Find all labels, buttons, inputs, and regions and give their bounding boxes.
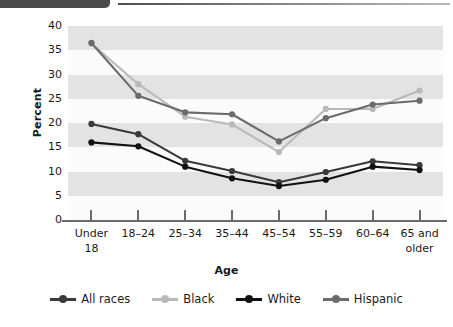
x-tick-mark	[278, 210, 280, 220]
data-point	[229, 111, 235, 117]
x-tick-label-line: 65 and	[385, 226, 453, 241]
data-point	[370, 158, 376, 164]
header-divider-rule	[118, 3, 450, 5]
data-point	[370, 164, 376, 170]
data-point	[135, 131, 141, 137]
data-point	[323, 115, 329, 121]
y-tick-label: 25	[30, 93, 62, 104]
y-tick-label: 30	[30, 69, 62, 80]
data-point	[416, 98, 422, 104]
y-tick-label: 10	[30, 166, 62, 177]
legend-label: Hispanic	[354, 292, 403, 306]
legend-item-hispanic[interactable]: Hispanic	[323, 292, 403, 306]
x-tick-mark	[231, 210, 233, 220]
legend-marker-icon	[152, 294, 178, 305]
y-tick-label: 15	[30, 141, 62, 152]
data-point	[88, 121, 94, 127]
data-point	[229, 168, 235, 174]
data-point	[416, 167, 422, 173]
header-tab-badge	[0, 0, 110, 8]
y-tick-label: 5	[30, 190, 62, 201]
chart-legend: All racesBlackWhiteHispanic	[0, 292, 453, 306]
data-point	[276, 149, 282, 155]
y-axis-tick-labels: 0510152025303540	[30, 14, 62, 220]
data-point	[323, 106, 329, 112]
x-tick-label-line: 18	[56, 241, 126, 256]
legend-label: All races	[81, 292, 130, 306]
data-point	[276, 183, 282, 189]
header-strip	[0, 0, 453, 14]
data-point	[88, 40, 94, 46]
legend-label: White	[267, 292, 300, 306]
y-tick-label: 0	[30, 214, 62, 225]
data-point	[135, 143, 141, 149]
data-point	[135, 93, 141, 99]
data-point	[135, 81, 141, 87]
data-point	[276, 138, 282, 144]
legend-marker-icon	[50, 294, 76, 305]
series-layer	[68, 26, 443, 220]
x-axis-line	[62, 220, 447, 222]
x-tick-mark	[184, 210, 186, 220]
plot-area	[68, 26, 443, 220]
y-tick-label: 20	[30, 117, 62, 128]
data-point	[182, 164, 188, 170]
data-point	[323, 177, 329, 183]
x-tick-label: 65 andolder	[385, 226, 453, 256]
data-point	[182, 109, 188, 115]
x-tick-mark	[137, 210, 139, 220]
legend-item-all-races[interactable]: All races	[50, 292, 130, 306]
x-axis-title: Age	[0, 264, 453, 277]
x-tick-mark	[90, 210, 92, 220]
series-line-hispanic	[91, 43, 419, 141]
series-line-white	[91, 142, 419, 186]
legend-marker-icon	[236, 294, 262, 305]
legend-item-white[interactable]: White	[236, 292, 300, 306]
x-tick-label-line: older	[385, 241, 453, 256]
data-point	[88, 139, 94, 145]
x-tick-mark	[419, 210, 421, 220]
x-tick-mark	[372, 210, 374, 220]
line-chart-figure: Percent 0510152025303540 Under1818–2425–…	[0, 14, 453, 327]
y-tick-label: 35	[30, 44, 62, 55]
legend-item-black[interactable]: Black	[152, 292, 214, 306]
data-point	[416, 87, 422, 93]
data-point	[229, 175, 235, 181]
data-point	[182, 158, 188, 164]
x-tick-mark	[325, 210, 327, 220]
legend-label: Black	[183, 292, 214, 306]
data-point	[370, 101, 376, 107]
data-point	[323, 169, 329, 175]
y-tick-label: 40	[30, 20, 62, 31]
legend-marker-icon	[323, 294, 349, 305]
data-point	[229, 121, 235, 127]
